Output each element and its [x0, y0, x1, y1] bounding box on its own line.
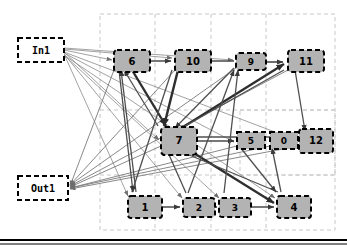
edge-in1-1: [64, 54, 128, 196]
io-port-out1[interactable]: Out1: [18, 176, 68, 200]
graph-svg: In1 Out1 6 10 9 11: [0, 0, 347, 247]
edge-9-7: [175, 68, 234, 128]
node-0[interactable]: 0: [270, 132, 298, 149]
node-7-label: 7: [176, 135, 183, 146]
edge-6-7: [132, 70, 166, 126]
node-4-label: 4: [291, 202, 298, 213]
node-12-label: 12: [309, 135, 323, 146]
node-9-label: 9: [248, 57, 254, 67]
node-5[interactable]: 5: [237, 132, 265, 149]
io-ports[interactable]: In1 Out1: [18, 38, 68, 200]
node-10-label: 10: [186, 56, 200, 67]
node-1-label: 1: [142, 202, 149, 213]
node-10[interactable]: 10: [175, 50, 211, 72]
node-11-label: 11: [299, 56, 313, 67]
node-9[interactable]: 9: [236, 53, 266, 70]
node-3[interactable]: 3: [219, 198, 251, 217]
node-2-label: 2: [196, 203, 202, 213]
node-7[interactable]: 7: [161, 127, 197, 155]
edge-10-7: [164, 70, 178, 126]
node-5-label: 5: [248, 136, 254, 146]
node-12[interactable]: 12: [299, 129, 333, 153]
node-6[interactable]: 6: [114, 50, 150, 72]
node-11[interactable]: 11: [288, 50, 324, 72]
node-1[interactable]: 1: [128, 196, 162, 218]
node-2[interactable]: 2: [183, 198, 215, 217]
edge-11-12: [295, 70, 305, 131]
node-6-label: 6: [129, 56, 136, 67]
io-port-out1-label: Out1: [31, 183, 55, 194]
node-3-label: 3: [232, 203, 238, 213]
edge-6-out1: [70, 70, 114, 186]
footer-rule: [0, 240, 347, 244]
io-port-in1[interactable]: In1: [18, 38, 64, 62]
edge-4-0: [272, 148, 281, 192]
node-4[interactable]: 4: [277, 196, 311, 218]
graph-diagram-canvas: In1 Out1 6 10 9 11: [0, 0, 347, 247]
io-port-in1-label: In1: [32, 45, 50, 56]
edge-7-6: [124, 70, 158, 126]
node-0-label: 0: [281, 136, 287, 146]
